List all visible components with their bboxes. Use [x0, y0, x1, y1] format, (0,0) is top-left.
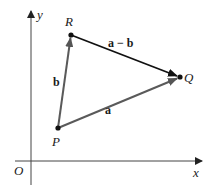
- point-r: [68, 32, 73, 37]
- x-axis-label: x: [192, 165, 199, 180]
- point-q: [177, 74, 182, 79]
- point-p-label: P: [51, 134, 60, 149]
- point-r-label: R: [64, 14, 73, 29]
- y-axis-label: y: [35, 7, 43, 22]
- point-p: [55, 125, 60, 130]
- vector-b: [58, 38, 71, 128]
- vector-diagram: y x O R P Q b a a − b: [0, 0, 218, 185]
- vector-a: [58, 79, 177, 129]
- vector-a-minus-b-label: a − b: [108, 36, 134, 50]
- origin-label: O: [14, 163, 24, 178]
- point-q-label: Q: [184, 70, 194, 85]
- vector-a-label: a: [105, 103, 111, 117]
- vector-b-label: b: [53, 75, 60, 89]
